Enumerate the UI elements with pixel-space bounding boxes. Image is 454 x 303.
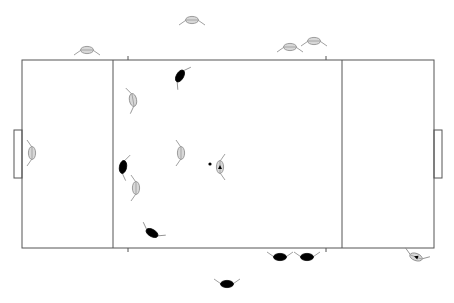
player-body-icon xyxy=(301,253,314,260)
player-body-icon xyxy=(145,227,160,240)
player-marker-dark[interactable] xyxy=(117,154,130,181)
player-marker-light[interactable] xyxy=(176,140,185,166)
player-body-icon xyxy=(221,280,234,287)
player-marker-light[interactable] xyxy=(27,140,36,166)
player-body-icon xyxy=(174,69,187,84)
goal-right xyxy=(434,130,442,178)
player-marker-light[interactable] xyxy=(403,248,430,265)
court-boundary xyxy=(22,60,434,248)
court-diagram xyxy=(0,0,454,303)
goal-left xyxy=(14,130,22,178)
court-lines xyxy=(14,56,442,252)
player-marker-light[interactable] xyxy=(131,175,140,201)
tactics-board xyxy=(0,0,454,303)
player-marker-light[interactable] xyxy=(126,87,139,114)
player-marker-light[interactable] xyxy=(179,16,205,25)
player-body-icon xyxy=(274,253,287,260)
ball-icon[interactable] xyxy=(208,162,211,165)
player-marker-dark[interactable] xyxy=(294,252,320,261)
ball-layer xyxy=(208,162,211,165)
player-marker-light[interactable] xyxy=(216,154,225,180)
player-marker-dark[interactable] xyxy=(214,279,240,288)
player-marker-dark[interactable] xyxy=(139,222,166,242)
players-layer xyxy=(27,16,430,287)
player-marker-light[interactable] xyxy=(277,43,303,52)
player-marker-dark[interactable] xyxy=(170,63,190,90)
player-marker-light[interactable] xyxy=(74,46,100,55)
player-body-icon xyxy=(118,160,127,174)
player-marker-light[interactable] xyxy=(301,37,327,46)
player-marker-dark[interactable] xyxy=(267,252,293,261)
